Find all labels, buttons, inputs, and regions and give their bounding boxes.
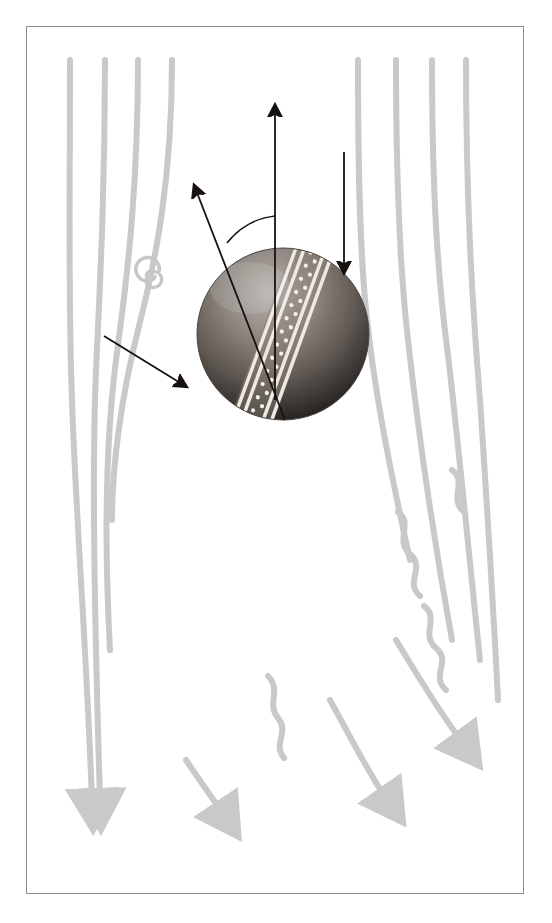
wavy-wake-lines [268,470,464,758]
angle-of-attack-label [196,148,292,300]
laminar-flow-label [366,150,383,261]
streamlines-left [70,60,173,800]
cricket-ball-airflow-figure [0,0,552,923]
flow-field-layer [0,0,552,923]
turbulent-flow-label [26,306,43,417]
streamlines-wake-arrows [186,640,462,812]
